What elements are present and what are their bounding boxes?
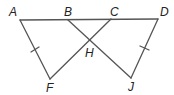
label-c: C	[110, 6, 119, 18]
label-j: J	[128, 81, 134, 93]
segment-fc	[50, 19, 111, 79]
label-d: D	[160, 6, 169, 18]
label-a: A	[9, 6, 17, 18]
tick-mark-af	[31, 47, 39, 52]
segment-bj	[68, 20, 131, 78]
geometry-diagram: A B C D H F J	[0, 0, 174, 95]
segment-ad	[20, 19, 158, 20]
label-f: F	[46, 82, 53, 94]
label-h: H	[85, 47, 94, 59]
label-b: B	[64, 6, 72, 18]
